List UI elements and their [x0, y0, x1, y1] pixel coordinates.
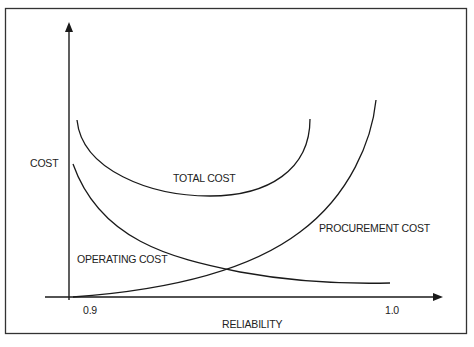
- total-cost-label: TOTAL COST: [173, 172, 236, 184]
- y-axis-label: COST: [30, 157, 58, 169]
- x-axis-label: RELIABILITY: [222, 318, 282, 330]
- x-tick-1-0: 1.0: [385, 304, 399, 316]
- procurement-cost-label: PROCUREMENT COST: [319, 222, 430, 234]
- operating-cost-label: OPERATING COST: [77, 253, 167, 265]
- diagram-frame: [6, 9, 467, 334]
- reliability-cost-diagram: [0, 0, 474, 347]
- x-tick-0-9: 0.9: [83, 304, 97, 316]
